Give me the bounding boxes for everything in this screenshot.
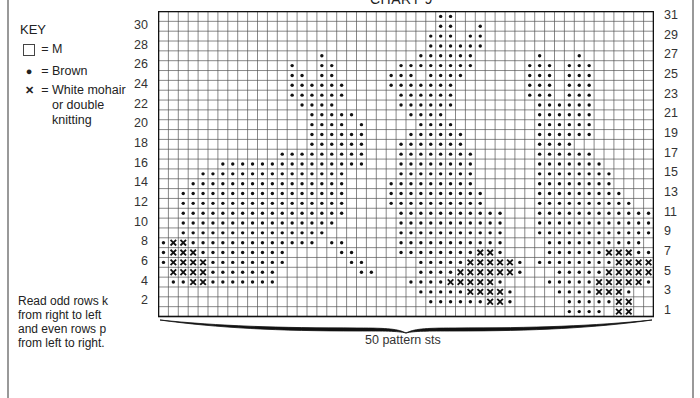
brown-stitch-dot: [558, 251, 561, 254]
brown-stitch-dot: [578, 192, 581, 195]
brown-stitch-dot: [221, 172, 224, 175]
white-stitch-cross: [487, 289, 493, 295]
brown-stitch-dot: [637, 211, 640, 214]
brown-stitch-dot: [617, 241, 620, 244]
white-stitch-cross: [487, 260, 493, 266]
brown-stitch-dot: [231, 192, 234, 195]
brown-stitch-dot: [310, 202, 313, 205]
brown-stitch-dot: [320, 143, 323, 146]
brown-stitch-dot: [459, 211, 462, 214]
white-stitch-cross: [171, 260, 177, 266]
brown-stitch-dot: [578, 172, 581, 175]
brown-stitch-dot: [290, 182, 293, 185]
white-stitch-cross: [468, 279, 474, 285]
brown-stitch-dot: [350, 113, 353, 116]
white-stitch-cross: [606, 279, 612, 285]
brown-stitch-dot: [330, 192, 333, 195]
brown-stitch-dot: [578, 152, 581, 155]
brown-stitch-dot: [449, 123, 452, 126]
brown-stitch-dot: [399, 152, 402, 155]
brown-stitch-dot: [578, 261, 581, 264]
brown-stitch-dot: [399, 211, 402, 214]
brown-stitch-dot: [330, 172, 333, 175]
brown-stitch-dot: [429, 271, 432, 274]
brown-stitch-dot: [231, 172, 234, 175]
brown-stitch-dot: [300, 103, 303, 106]
brown-stitch-dot: [419, 251, 422, 254]
brown-stitch-dot: [241, 162, 244, 165]
brown-stitch-dot: [360, 261, 363, 264]
brown-stitch-dot: [587, 113, 590, 116]
brown-stitch-dot: [261, 172, 264, 175]
brown-stitch-dot: [607, 231, 610, 234]
brown-stitch-dot: [587, 152, 590, 155]
brown-stitch-dot: [429, 182, 432, 185]
white-stitch-cross: [477, 269, 483, 275]
brown-stitch-dot: [211, 202, 214, 205]
brown-stitch-dot: [350, 133, 353, 136]
brown-stitch-dot: [330, 182, 333, 185]
brown-stitch-dot: [409, 113, 412, 116]
brown-stitch-dot: [469, 44, 472, 47]
brown-stitch-dot: [578, 64, 581, 67]
brown-stitch-dot: [439, 192, 442, 195]
white-stitch-cross: [497, 269, 503, 275]
brown-stitch-dot: [469, 221, 472, 224]
brown-stitch-dot: [330, 133, 333, 136]
brown-stitch-dot: [182, 280, 185, 283]
brown-stitch-dot: [419, 54, 422, 57]
brown-stitch-dot: [310, 133, 313, 136]
brown-stitch-dot: [607, 241, 610, 244]
brown-stitch-dot: [568, 231, 571, 234]
brown-stitch-dot: [330, 113, 333, 116]
brown-stitch-dot: [617, 231, 620, 234]
brown-stitch-dot: [469, 231, 472, 234]
brown-stitch-dot: [191, 202, 194, 205]
white-stitch-cross: [606, 289, 612, 295]
brown-stitch-dot: [350, 152, 353, 155]
brown-stitch-dot: [488, 211, 491, 214]
brown-stitch-dot: [271, 221, 274, 224]
brown-stitch-dot: [211, 271, 214, 274]
brown-stitch-dot: [479, 300, 482, 303]
row-number-label: 27: [664, 47, 694, 61]
brown-stitch-dot: [469, 152, 472, 155]
brown-stitch-dot: [330, 221, 333, 224]
brown-stitch-dot: [508, 290, 511, 293]
brown-stitch-dot: [389, 84, 392, 87]
brown-stitch-dot: [340, 113, 343, 116]
brown-stitch-dot: [498, 280, 501, 283]
white-stitch-cross: [606, 269, 612, 275]
brown-stitch-dot: [449, 221, 452, 224]
brown-stitch-dot: [538, 202, 541, 205]
brown-stitch-dot: [548, 231, 551, 234]
brown-stitch-dot: [340, 143, 343, 146]
brown-stitch-dot: [399, 231, 402, 234]
brown-stitch-dot: [201, 202, 204, 205]
brown-stitch-dot: [300, 93, 303, 96]
brown-stitch-dot: [429, 34, 432, 37]
brown-stitch-dot: [439, 103, 442, 106]
brown-stitch-dot: [281, 221, 284, 224]
brown-stitch-dot: [211, 221, 214, 224]
brown-stitch-dot: [201, 231, 204, 234]
white-stitch-cross: [596, 279, 602, 285]
brown-stitch-dot: [558, 261, 561, 264]
brown-stitch-dot: [548, 251, 551, 254]
white-stitch-cross: [458, 269, 464, 275]
brown-stitch-dot: [399, 172, 402, 175]
brown-stitch-dot: [389, 202, 392, 205]
brown-stitch-dot: [419, 182, 422, 185]
brown-stitch-dot: [568, 113, 571, 116]
white-stitch-cross: [626, 309, 632, 315]
brown-stitch-dot: [498, 211, 501, 214]
white-stitch-cross: [646, 269, 652, 275]
brown-stitch-dot: [409, 231, 412, 234]
cross-icon: ✕: [20, 83, 38, 98]
brown-stitch-dot: [607, 172, 610, 175]
brown-stitch-dot: [459, 74, 462, 77]
brown-stitch-dot: [310, 172, 313, 175]
brown-stitch-dot: [538, 133, 541, 136]
brown-stitch-dot: [538, 162, 541, 165]
white-stitch-cross: [200, 269, 206, 275]
